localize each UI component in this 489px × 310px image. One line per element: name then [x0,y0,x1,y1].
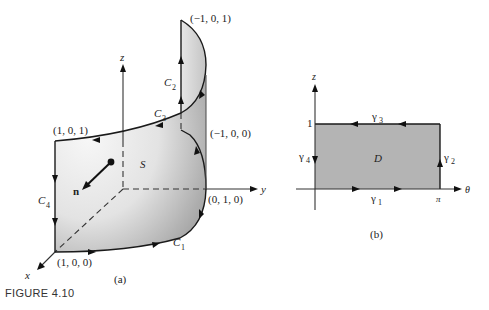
figure-caption: FIGURE 4.10 [5,287,74,299]
x-axis-label: x [24,269,30,281]
svg-text:C: C [164,76,172,88]
z-axis-b-arrowhead [312,84,318,92]
panel-a-label: (a) [114,273,127,286]
svg-text:γ: γ [371,110,377,122]
curve-label-c1: C 1 [173,236,185,252]
point-x-label: (1, 0, 0) [57,256,92,269]
panel-b: z θ 1 π D γ 3 γ 2 γ 4 γ 1 (b) [296,71,470,241]
z-axis-b-label: z [311,71,316,82]
svg-text:1: 1 [181,243,185,252]
gamma-label-3: γ 3 [371,110,383,125]
svg-text:C: C [38,194,46,206]
svg-text:3: 3 [162,114,166,123]
y-axis-arrowhead [250,186,258,192]
svg-text:C: C [173,236,181,248]
svg-text:γ: γ [370,192,376,204]
point-left-top-label: (1, 0, 1) [53,124,88,137]
svg-text:4: 4 [306,156,310,165]
curve-label-c4: C 4 [38,194,50,210]
z-axis-arrowhead [120,64,126,72]
x-axis [41,252,55,266]
tick-theta-pi: π [436,194,441,204]
svg-text:1: 1 [378,198,382,207]
svg-text:2: 2 [172,83,176,92]
theta-axis-arrowhead [454,186,462,192]
point-y-label: (0, 1, 0) [208,193,243,206]
svg-text:2: 2 [451,157,455,166]
figure-canvas: z y x S n (−1, 0, 1) (−1, 0, 0) (1, 0, 1… [0,0,489,310]
normal-base-dot [108,159,115,166]
svg-text:3: 3 [379,116,383,125]
point-mid-right-label: (−1, 0, 0) [210,127,251,140]
point-top-label: (−1, 0, 1) [190,12,231,25]
panel-a: z y x S n (−1, 0, 1) (−1, 0, 0) (1, 0, 1… [24,12,266,286]
svg-text:γ: γ [298,150,304,162]
svg-text:C: C [154,107,162,119]
c1-arrow-2 [152,242,160,248]
gamma-label-2: γ 2 [443,151,455,166]
region-label: D [373,152,382,164]
panel-b-label: (b) [370,228,383,241]
curve-label-c2: C 2 [164,76,176,92]
gamma-label-1: γ 1 [370,192,382,207]
tick-z-1: 1 [307,117,313,129]
y-axis-label: y [260,183,266,195]
z-axis-label: z [119,51,125,63]
svg-text:γ: γ [443,151,449,163]
theta-axis-label: θ [465,184,470,195]
normal-label: n [73,185,79,197]
gamma-label-4: γ 4 [298,150,310,165]
svg-text:4: 4 [46,201,50,210]
surface-label: S [140,158,146,170]
